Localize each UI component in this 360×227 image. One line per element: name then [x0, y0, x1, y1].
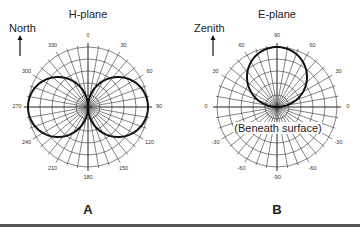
e-plane-angle-tick: 0: [204, 103, 207, 109]
e-plane-angle-tick: 60: [238, 42, 244, 48]
h-plane-angle-tick: 210: [48, 165, 57, 171]
h-plane-angle-tick: 180: [83, 174, 92, 180]
h-plane-angle-tick: 300: [22, 68, 31, 74]
panel-label-a: A: [83, 202, 92, 217]
zenith-arrow-icon-head: [211, 35, 216, 40]
north-arrow-icon-head: [18, 35, 23, 40]
h-plane-angle-tick: 90: [156, 103, 162, 109]
e-plane-angle-tick: 0: [346, 103, 349, 109]
h-plane-angle-tick: 60: [146, 68, 152, 74]
h-plane-angle-tick: 0: [86, 32, 89, 38]
e-plane-angle-tick: 90: [274, 32, 280, 38]
e-plane-angle-tick: -30: [212, 139, 220, 145]
h-plane-angle-tick: 120: [145, 139, 154, 145]
e-plane-angle-tick: 30: [335, 68, 341, 74]
zenith-label: Zenith: [194, 22, 225, 34]
north-label: North: [9, 22, 36, 34]
h-plane-angle-tick: 30: [120, 42, 126, 48]
e-plane-angle-tick: -30: [335, 139, 343, 145]
h-plane-title: H-plane: [69, 8, 108, 20]
h-plane-angle-tick: 240: [22, 139, 31, 145]
h-plane-angle-tick: 270: [12, 103, 21, 109]
h-plane-angle-tick: 330: [48, 42, 57, 48]
beneath-surface-annotation: (Beneath surface): [233, 122, 322, 134]
e-plane-angle-tick: -60: [238, 165, 246, 171]
bottom-divider: [0, 224, 360, 227]
antenna-pattern-figure: 03060901201501802102402703003309060300-3…: [0, 0, 360, 227]
e-plane-angle-tick: -90: [273, 174, 281, 180]
e-plane-angle-tick: 30: [212, 68, 218, 74]
e-plane-title: E-plane: [258, 8, 296, 20]
e-plane-angle-tick: 60: [309, 42, 315, 48]
e-plane-angle-tick: -60: [309, 165, 317, 171]
panel-label-b: B: [272, 202, 281, 217]
h-plane-angle-tick: 150: [119, 165, 128, 171]
